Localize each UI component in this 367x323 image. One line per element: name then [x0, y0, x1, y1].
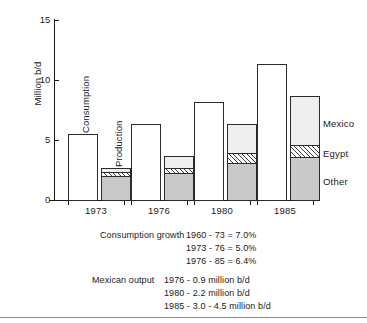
y-tick-label-15: 15: [24, 15, 50, 25]
note-mexican-output-line2: 1980 - 2.2 million b/d: [164, 288, 250, 298]
note-mexican-output-line1: 1976 - 0.9 million b/d: [164, 275, 250, 285]
legend-label-other: Other: [323, 176, 348, 187]
caption-consumption: Consumption: [80, 76, 91, 133]
segment-other-1976: [164, 173, 194, 201]
y-tick-label-0: 0: [24, 195, 50, 205]
x-tick-label-1980: 1980: [192, 205, 252, 216]
x-tick-label-1985: 1985: [255, 205, 315, 216]
segment-other-1973: [101, 176, 131, 201]
x-tick-label-1973: 1973: [66, 205, 126, 216]
note-consumption-growth-line2: 1973 - 76 = 5.0%: [186, 243, 256, 253]
bar-production-1980: [227, 124, 257, 201]
y-tick-mark-5: [54, 140, 59, 141]
segment-mexico-1985: [290, 96, 320, 145]
note-consumption-growth-line1: 1960 - 73 = 7.0%: [186, 230, 256, 240]
bar-consumption-1980: [194, 102, 224, 201]
bar-production-1973: [101, 168, 131, 201]
note-consumption-growth-head: Consumption growth: [100, 230, 184, 240]
note-mexican-output-line3: 1985 - 3.0 - 4.5 million b/d: [164, 301, 271, 311]
segment-egypt-1980: [227, 153, 257, 163]
oil-consumption-production-chart: 15 10 5 0 Million b/d 1973 1976 1980 198…: [0, 0, 367, 323]
y-tick-mark-15: [54, 20, 59, 21]
bar-production-1976: [164, 156, 194, 201]
legend-label-egypt: Egypt: [323, 148, 348, 159]
segment-other-1985: [290, 157, 320, 201]
note-mexican-output-head: Mexican output: [92, 275, 154, 285]
x-tick-label-1976: 1976: [129, 205, 189, 216]
bar-consumption-1973: [68, 134, 98, 201]
segment-mexico-1980: [227, 124, 257, 153]
segment-mexico-1976: [164, 156, 194, 168]
y-axis-line: [54, 19, 55, 201]
segment-other-1980: [227, 163, 257, 201]
legend-label-mexico: Mexico: [323, 118, 354, 129]
bottom-divider: [0, 317, 367, 318]
bar-consumption-1976: [131, 124, 161, 201]
y-tick-label-5: 5: [24, 135, 50, 145]
bar-consumption-1985: [257, 64, 287, 201]
caption-production: Production: [113, 121, 124, 167]
bar-production-1985: [290, 96, 320, 201]
note-consumption-growth-line3: 1976 - 85 = 6.4%: [186, 256, 256, 266]
y-axis-title: Million b/d: [32, 34, 43, 134]
segment-egypt-1985: [290, 145, 320, 157]
y-tick-mark-10: [54, 80, 59, 81]
